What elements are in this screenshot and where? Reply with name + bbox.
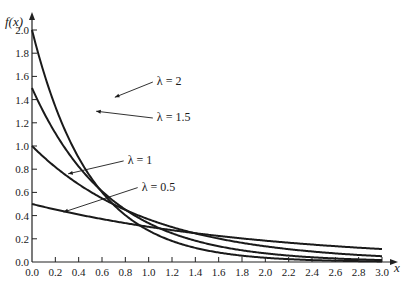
y-tick-label: 0.2 — [15, 233, 29, 245]
curve-lambda-0-5 — [32, 204, 382, 249]
x-axis-title: x — [393, 260, 400, 275]
y-tick-label: 0.6 — [15, 186, 29, 198]
curve-label: λ = 2 — [157, 74, 182, 88]
curve-label: λ = 0.5 — [142, 180, 176, 194]
leader-line — [115, 82, 153, 97]
y-tick-label: 1.8 — [15, 47, 29, 59]
x-tick-label: 0.6 — [95, 266, 109, 278]
y-tick-label: 1.2 — [15, 117, 29, 129]
x-tick-label: 2.8 — [352, 266, 366, 278]
x-tick-label: 2.0 — [258, 266, 272, 278]
x-tick-label: 0.2 — [48, 266, 62, 278]
leader-line — [96, 111, 153, 118]
x-tick-label: 2.4 — [305, 266, 319, 278]
x-tick-label: 0.8 — [118, 266, 132, 278]
x-tick-label: 1.8 — [235, 266, 249, 278]
curve-label: λ = 1 — [128, 153, 153, 167]
curve-lambda-1 — [32, 146, 382, 256]
curve-annotations: λ = 2λ = 1.5λ = 1λ = 0.5 — [64, 74, 191, 212]
x-tick-label: 3.0 — [375, 266, 389, 278]
curves — [32, 30, 382, 261]
x-tick-label: 1.2 — [165, 266, 179, 278]
x-tick-label: 2.6 — [328, 266, 342, 278]
arrowhead-icon — [96, 110, 101, 114]
y-tick-label: 1.4 — [15, 94, 29, 106]
ticks: 0.00.20.40.60.81.01.21.41.61.82.02.22.42… — [15, 24, 389, 278]
x-tick-label: 1.6 — [212, 266, 226, 278]
arrowhead-icon — [115, 94, 120, 98]
y-tick-label: 0.0 — [15, 256, 29, 268]
y-tick-label: 1.6 — [15, 70, 29, 82]
y-axis-arrow-icon — [29, 12, 35, 20]
y-axis-title: f(x) — [5, 14, 23, 29]
y-tick-label: 0.8 — [15, 163, 29, 175]
x-tick-label: 2.2 — [282, 266, 296, 278]
curve-lambda-2 — [32, 30, 382, 261]
curve-label: λ = 1.5 — [157, 110, 191, 124]
axes — [29, 12, 398, 265]
x-tick-label: 1.0 — [142, 266, 156, 278]
y-tick-label: 1.0 — [15, 140, 29, 152]
y-tick-label: 0.4 — [15, 210, 29, 222]
x-tick-label: 1.4 — [188, 266, 202, 278]
x-tick-label: 0.4 — [72, 266, 86, 278]
exponential-pdf-chart: λ = 2λ = 1.5λ = 1λ = 0.5 0.00.20.40.60.8… — [0, 0, 409, 285]
